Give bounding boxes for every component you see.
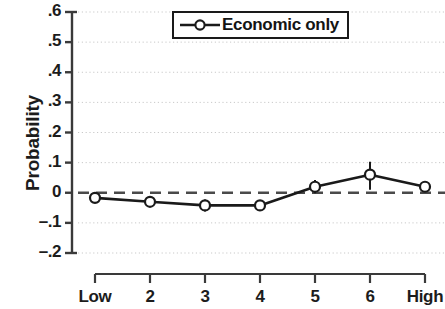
- x-tick-label: 2: [145, 287, 154, 307]
- x-axis-bracket: [95, 274, 425, 283]
- y-tick-label: .5: [15, 31, 61, 51]
- y-tick-label: .1: [15, 152, 61, 172]
- y-tick-label: .3: [15, 91, 61, 111]
- chart-figure: Probability .6.5.4.3.2.10–.1–.2 Low23456…: [0, 0, 445, 309]
- x-tick-label: 4: [255, 287, 264, 307]
- y-tick-label: .2: [15, 122, 61, 142]
- y-tick-label: .6: [15, 1, 61, 21]
- data-series-economic-only: [90, 162, 430, 212]
- y-tick-label: –.1: [15, 212, 61, 232]
- x-tick-label: Low: [78, 287, 111, 307]
- y-tick-label: –.2: [15, 242, 61, 262]
- x-tick-label: 6: [365, 287, 374, 307]
- y-tick-label: .4: [15, 61, 61, 81]
- legend: Economic only: [172, 11, 349, 39]
- y-tick-label: 0: [15, 182, 61, 202]
- legend-marker-icon: [178, 16, 222, 34]
- gridlines-group: [78, 12, 445, 253]
- x-tick-label: High: [407, 287, 444, 307]
- plot-area: [0, 0, 445, 309]
- x-tick-label: 3: [200, 287, 209, 307]
- legend-entry-label: Economic only: [222, 15, 339, 35]
- x-tick-label: 5: [310, 287, 319, 307]
- y-axis: [65, 12, 77, 253]
